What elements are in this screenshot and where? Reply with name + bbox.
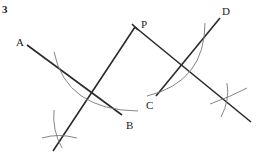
arc-cross-cd-2: [210, 88, 247, 104]
construction-figure: 3 A B P C D: [0, 0, 257, 155]
label-b: B: [126, 119, 133, 131]
segment-ab: [27, 45, 122, 115]
label-p: P: [141, 18, 147, 30]
label-a: A: [16, 36, 24, 48]
arc-on-cd: [147, 23, 205, 96]
arc-cross-ab-2: [42, 136, 77, 139]
perpendicular-to-ab: [53, 27, 135, 151]
arc-on-ab: [54, 52, 138, 111]
label-d: D: [222, 5, 230, 17]
label-c: C: [146, 99, 153, 111]
figure-number: 3: [2, 3, 8, 15]
diagram-canvas: 3 A B P C D: [0, 0, 257, 155]
segment-cd: [156, 18, 220, 96]
